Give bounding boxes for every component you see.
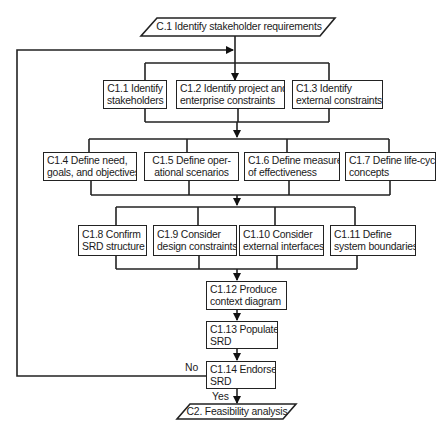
node-line: C1.8 Confirm	[82, 229, 143, 241]
yes-label: Yes	[212, 391, 229, 403]
node-line: C1.3 Identify	[296, 83, 379, 95]
node-line: C1.5 Define oper-	[148, 155, 235, 167]
node-line: external constraints	[296, 95, 379, 107]
start-terminal: C.1 Identify stakeholder requirements	[150, 21, 328, 33]
end-terminal: C2. Feasibility analysis	[182, 406, 292, 418]
node-line: C1.2 Identify project and	[180, 83, 281, 95]
node-line: C1.6 Define measures	[248, 155, 336, 167]
no-label: No	[185, 362, 198, 374]
node-c1-1-identify-stakeholders: C1.1 Identify stakeholders	[103, 80, 167, 109]
node-line: system boundaries	[334, 241, 412, 253]
node-line: concepts	[349, 167, 432, 179]
node-line: C1.13 Populate	[210, 324, 274, 336]
node-line: SRD structure	[82, 241, 143, 253]
node-line: C1.1 Identify	[107, 83, 163, 95]
node-c1-11-define-system-boundaries: C1.11 Define system boundaries	[330, 225, 416, 256]
node-c1-12-produce-context-diagram: C1.12 Produce context diagram	[206, 281, 287, 310]
node-c1-13-populate-srd: C1.13 Populate SRD	[206, 321, 278, 349]
node-c1-5-define-operational-scenarios: C1.5 Define oper- ational scenarios	[144, 152, 239, 181]
node-line: C1.9 Consider	[157, 229, 233, 241]
node-line: enterprise constraints	[180, 95, 281, 107]
node-line: SRD	[210, 376, 272, 388]
node-line: context diagram	[210, 296, 283, 308]
node-c1-7-define-life-cycle-concepts: C1.7 Define life-cycle concepts	[345, 152, 436, 181]
node-c1-8-confirm-srd-structure: C1.8 Confirm SRD structure	[78, 225, 147, 256]
node-line: SRD	[210, 336, 274, 348]
node-c1-6-define-measures-of-effectiveness: C1.6 Define measures of effectiveness	[244, 152, 340, 181]
node-c1-2-identify-project-constraints: C1.2 Identify project and enterprise con…	[176, 80, 285, 109]
node-line: C1.10 Consider	[243, 229, 320, 241]
node-c1-14-endorse-srd: C1.14 Endorse SRD	[206, 361, 276, 389]
node-line: external interfaces	[243, 241, 320, 253]
node-line: C1.11 Define	[334, 229, 412, 241]
node-c1-9-consider-design-constraints: C1.9 Consider design constraints	[153, 225, 237, 256]
node-line: C1.7 Define life-cycle	[349, 155, 432, 167]
node-c1-4-define-need-goals: C1.4 Define need, goals, and objectives	[43, 152, 137, 181]
node-c1-10-consider-external-interfaces: C1.10 Consider external interfaces	[239, 225, 324, 256]
node-line: design constraints	[157, 241, 233, 253]
node-c1-3-identify-external-constraints: C1.3 Identify external constraints	[292, 80, 383, 109]
node-line: stakeholders	[107, 95, 163, 107]
node-line: C1.4 Define need,	[47, 155, 133, 167]
node-line: C1.14 Endorse	[210, 364, 272, 376]
node-line: of effectiveness	[248, 167, 336, 179]
node-line: goals, and objectives	[47, 167, 133, 179]
node-line: C1.12 Produce	[210, 284, 283, 296]
node-line: ational scenarios	[148, 167, 235, 179]
